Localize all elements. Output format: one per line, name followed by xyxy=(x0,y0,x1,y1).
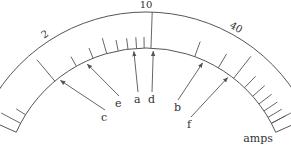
minor-tick xyxy=(16,109,25,115)
pointer-arrow-f xyxy=(191,78,228,117)
minor-tick xyxy=(245,76,256,88)
major-tick xyxy=(151,12,152,48)
pointer-arrow-d xyxy=(152,51,153,92)
pointer-arrow-a xyxy=(134,52,138,92)
tick-100 xyxy=(271,113,290,123)
minor-tick xyxy=(71,57,76,67)
minor-tick xyxy=(268,109,282,117)
pointer-arrow-c xyxy=(60,80,105,110)
pointer-label-b: b xyxy=(174,101,181,114)
minor-tick xyxy=(253,86,265,97)
major-tick xyxy=(234,56,251,78)
unit-label: amps xyxy=(243,132,273,145)
major-tick xyxy=(37,60,55,81)
minor-tick xyxy=(102,38,106,53)
minor-tick xyxy=(89,48,93,58)
minor-tick xyxy=(136,37,137,48)
scale-label-2: 2 xyxy=(39,28,50,41)
minor-tick xyxy=(127,38,128,49)
pointer-label-e: e xyxy=(115,97,122,110)
minor-tick xyxy=(264,102,277,111)
tick-0 xyxy=(1,113,20,123)
scale-label-10: 10 xyxy=(140,0,153,10)
pointer-label-c: c xyxy=(101,111,107,124)
pointer-arrow-e xyxy=(87,64,119,96)
inner-arc xyxy=(16,48,275,132)
minor-tick xyxy=(195,42,200,57)
minor-tick xyxy=(116,40,118,51)
pointer-label-a: a xyxy=(134,93,141,106)
pointer-label-f: f xyxy=(187,118,192,131)
pointer-label-d: d xyxy=(148,93,155,106)
pointer-arrow-b xyxy=(178,63,203,100)
minor-tick xyxy=(218,54,226,68)
ammeter-gauge: 021040100abcdefamps xyxy=(0,0,291,148)
minor-tick xyxy=(259,94,272,104)
